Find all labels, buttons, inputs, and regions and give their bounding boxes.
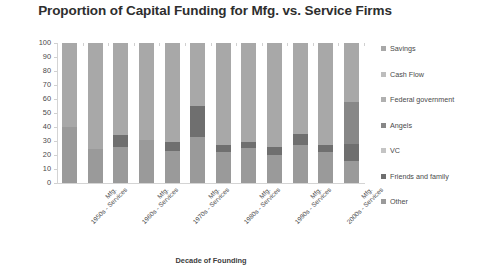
x-axis-title: Decade of Founding	[57, 256, 365, 265]
bar-segment[interactable]	[344, 161, 359, 183]
bar-column[interactable]	[318, 43, 333, 183]
bar-segment[interactable]	[88, 149, 103, 183]
y-tick-mark	[54, 141, 57, 142]
x-tick-mark	[185, 43, 186, 46]
bar-column[interactable]	[139, 43, 154, 183]
bar-segment[interactable]	[267, 43, 282, 147]
legend-label: Angels	[390, 121, 412, 130]
legend-label: Federal government	[390, 95, 454, 104]
bar-segment[interactable]	[241, 43, 256, 142]
legend-swatch-icon	[381, 199, 386, 204]
legend-item[interactable]: Angels	[381, 121, 412, 130]
bar-column[interactable]	[216, 43, 231, 183]
y-tick-mark	[54, 169, 57, 170]
y-tick-label: 70	[43, 80, 51, 89]
y-tick-label: 10	[43, 164, 51, 173]
bar-segment[interactable]	[216, 43, 231, 145]
x-tick-mark	[83, 43, 84, 46]
legend-item[interactable]: Friends and family	[381, 172, 449, 181]
bar-segment[interactable]	[318, 152, 333, 183]
bar-column[interactable]	[293, 43, 308, 183]
bar-segment[interactable]	[190, 137, 205, 183]
chart-container: Proportion of Capital Funding for Mfg. v…	[0, 0, 488, 278]
bar-segment[interactable]	[113, 147, 128, 183]
y-tick-mark	[54, 113, 57, 114]
bar-column[interactable]	[241, 43, 256, 183]
bar-segment[interactable]	[190, 106, 205, 137]
x-tick-mark	[134, 43, 135, 46]
y-tick-mark	[54, 155, 57, 156]
bar-segment[interactable]	[318, 43, 333, 145]
legend-swatch-icon	[381, 174, 386, 179]
y-tick-label: 100	[39, 38, 51, 47]
bar-segment[interactable]	[165, 142, 180, 150]
bar-segment[interactable]	[88, 43, 103, 149]
legend-label: Other	[390, 197, 408, 206]
x-tick-mark	[159, 43, 160, 46]
legend-swatch-icon	[381, 97, 386, 102]
x-tick-mark	[108, 43, 109, 46]
bar-segment[interactable]	[139, 43, 154, 140]
bar-segment[interactable]	[267, 147, 282, 155]
y-tick-mark	[54, 85, 57, 86]
y-tick-mark	[54, 99, 57, 100]
x-tick-mark	[236, 43, 237, 46]
bar-column[interactable]	[88, 43, 103, 183]
bar-segment[interactable]	[216, 152, 231, 183]
legend-label: Cash Flow	[390, 70, 424, 79]
bar-segment[interactable]	[344, 102, 359, 144]
legend-label: VC	[390, 146, 400, 155]
x-tick-mark	[262, 43, 263, 46]
y-tick-label: 30	[43, 136, 51, 145]
bar-segment[interactable]	[241, 148, 256, 183]
legend-item[interactable]: VC	[381, 146, 400, 155]
bar-segment[interactable]	[216, 145, 231, 152]
y-tick-mark	[54, 71, 57, 72]
y-tick-label: 0	[47, 178, 51, 187]
bar-column[interactable]	[165, 43, 180, 183]
bar-column[interactable]	[62, 43, 77, 183]
bar-segment[interactable]	[113, 43, 128, 135]
bar-segment[interactable]	[113, 135, 128, 146]
bar-segment[interactable]	[62, 127, 77, 183]
bar-column[interactable]	[344, 43, 359, 183]
x-tick-mark	[287, 43, 288, 46]
bar-segment[interactable]	[293, 134, 308, 145]
bar-segment[interactable]	[318, 145, 333, 152]
y-tick-label: 90	[43, 52, 51, 61]
y-tick-mark	[54, 57, 57, 58]
x-tick-mark	[338, 43, 339, 46]
y-tick-label: 20	[43, 150, 51, 159]
bar-column[interactable]	[190, 43, 205, 183]
bar-segment[interactable]	[293, 145, 308, 183]
bar-segment[interactable]	[165, 43, 180, 142]
bar-segment[interactable]	[344, 144, 359, 161]
legend-item[interactable]: Federal government	[381, 95, 454, 104]
bar-segment[interactable]	[190, 43, 205, 106]
bar-segment[interactable]	[165, 151, 180, 183]
legend-label: Savings	[390, 44, 416, 53]
y-tick-label: 40	[43, 122, 51, 131]
y-tick-label: 80	[43, 66, 51, 75]
legend-item[interactable]: Cash Flow	[381, 70, 424, 79]
bar-segment[interactable]	[139, 140, 154, 183]
bar-segment[interactable]	[267, 155, 282, 183]
bar-segment[interactable]	[62, 43, 77, 127]
y-tick-label: 60	[43, 94, 51, 103]
x-tick-mark	[313, 43, 314, 46]
chart-title: Proportion of Capital Funding for Mfg. v…	[0, 3, 430, 18]
legend-swatch-icon	[381, 123, 386, 128]
x-tick-mark	[364, 43, 365, 46]
legend-item[interactable]: Other	[381, 197, 408, 206]
legend-swatch-icon	[381, 148, 386, 153]
legend-swatch-icon	[381, 72, 386, 77]
legend-item[interactable]: Savings	[381, 44, 416, 53]
bar-column[interactable]	[113, 43, 128, 183]
bar-segment[interactable]	[241, 142, 256, 148]
y-tick-mark	[54, 183, 57, 184]
y-tick-mark	[54, 43, 57, 44]
bar-column[interactable]	[267, 43, 282, 183]
x-axis-line	[57, 183, 365, 184]
bar-segment[interactable]	[344, 43, 359, 102]
bar-segment[interactable]	[293, 43, 308, 134]
